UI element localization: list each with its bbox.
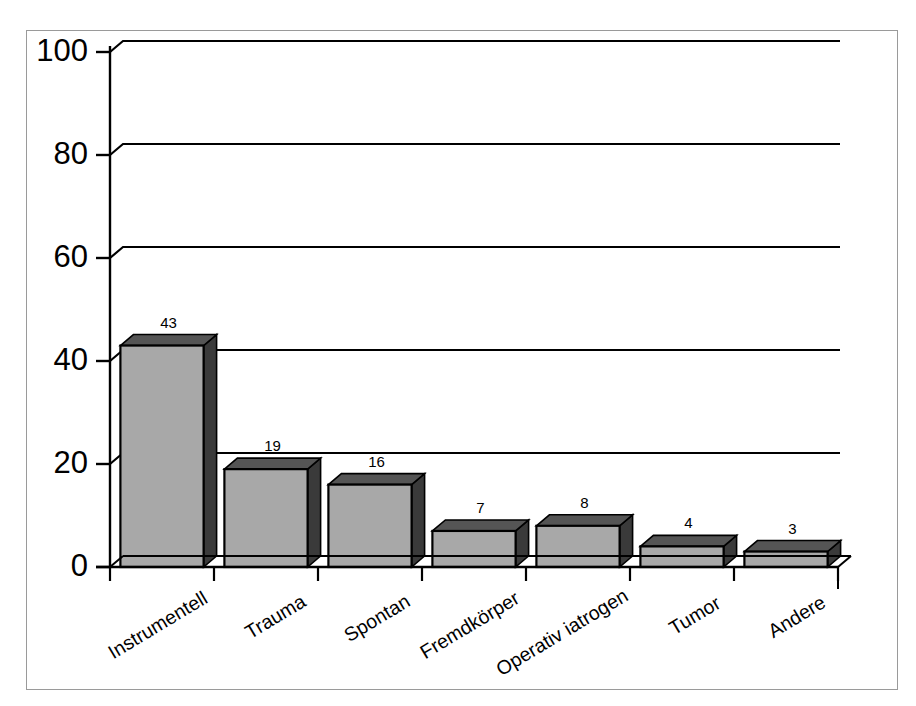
bar (744, 541, 840, 567)
y-axis-tick-label: 40 (8, 344, 88, 375)
y-axis-tick-label: 60 (8, 241, 88, 272)
bar-top-face (640, 535, 736, 546)
bar-value-label: 8 (580, 494, 588, 511)
bar-value-label: 4 (684, 514, 692, 531)
bar-side-face (412, 474, 425, 567)
y-axis-tick-label: 80 (8, 138, 88, 169)
y-axis-tick-label: 0 (8, 550, 88, 581)
plot-area (0, 0, 916, 706)
bar-value-label: 19 (264, 437, 281, 454)
bar-side-face (204, 335, 217, 567)
bar-front-face (744, 552, 827, 567)
bar-top-face (224, 458, 320, 469)
bar-front-face (432, 531, 515, 567)
gridlines (110, 41, 840, 464)
bar-side-face (308, 458, 321, 567)
bar (120, 335, 216, 567)
bar (328, 474, 424, 567)
bar-value-label: 3 (788, 520, 796, 537)
bar-front-face (536, 526, 619, 567)
chart-figure: 020406080100 InstrumentellTraumaSpontanF… (0, 0, 916, 706)
bar (224, 458, 320, 567)
gridline (110, 247, 840, 258)
bar-front-face (328, 485, 411, 567)
bar-top-face (744, 541, 840, 552)
bar (640, 535, 736, 567)
bar-value-label: 16 (368, 453, 385, 470)
y-axis-tick-label: 100 (8, 35, 88, 66)
bar-top-face (432, 520, 528, 531)
bar (536, 515, 632, 567)
bar (432, 520, 528, 567)
gridline (110, 453, 840, 464)
bar-front-face (224, 469, 307, 567)
gridline (110, 350, 840, 361)
bar-value-label: 43 (160, 314, 177, 331)
y-axis-tick-label: 20 (8, 447, 88, 478)
gridline (110, 41, 840, 52)
gridline (110, 144, 840, 155)
bar-top-face (536, 515, 632, 526)
bar-front-face (120, 346, 203, 567)
bar-top-face (328, 474, 424, 485)
bars-layer (120, 335, 840, 567)
bar-value-label: 7 (476, 499, 484, 516)
bar-top-face (120, 335, 216, 346)
floor-right-edge (838, 556, 851, 567)
